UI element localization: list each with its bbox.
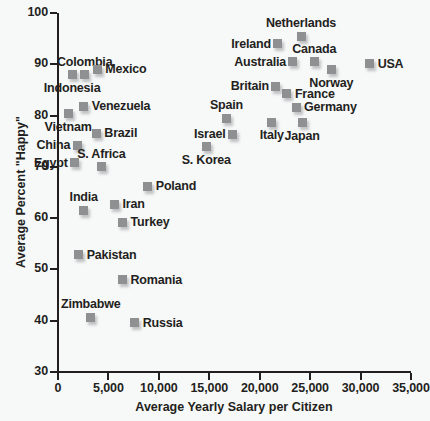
data-point-label: Pakistan xyxy=(87,248,137,262)
y-tick-label: 30 xyxy=(2,364,48,378)
data-point-label: S. Korea xyxy=(182,153,231,167)
data-point-label: China xyxy=(36,138,70,152)
data-point-marker[interactable] xyxy=(79,206,88,215)
data-point-label: Iran xyxy=(122,197,144,211)
data-point-label: Italy xyxy=(260,128,284,142)
data-point-label: Norway xyxy=(309,76,353,90)
x-tick-label: 20,000 xyxy=(241,381,279,395)
data-point-label: Britain xyxy=(231,79,269,93)
data-point-label: S. Africa xyxy=(77,147,125,161)
data-point-marker[interactable] xyxy=(64,109,73,118)
x-tick-mark xyxy=(410,373,412,380)
y-axis-title: Average Percent "Happy" xyxy=(14,92,28,292)
data-point-label: Poland xyxy=(156,179,196,193)
data-point-label: India xyxy=(70,190,98,204)
data-point-marker[interactable] xyxy=(327,65,336,74)
data-point-label: Germany xyxy=(304,100,357,114)
data-point-marker[interactable] xyxy=(365,59,374,68)
x-tick-label: 0 xyxy=(55,381,62,395)
y-tick-mark xyxy=(50,217,57,219)
data-point-marker[interactable] xyxy=(297,32,306,41)
x-axis-title: Average Yearly Salary per Citizen xyxy=(57,400,411,414)
y-tick-mark xyxy=(50,320,57,322)
data-point-label: Venezuela xyxy=(92,99,151,113)
x-tick-label: 10,000 xyxy=(140,381,178,395)
x-tick-label: 25,000 xyxy=(291,381,329,395)
data-point-marker[interactable] xyxy=(292,103,301,112)
data-point-label: Australia xyxy=(234,55,286,69)
y-tick-label: 90 xyxy=(2,56,48,70)
data-point-marker[interactable] xyxy=(118,275,127,284)
data-point-marker[interactable] xyxy=(86,313,95,322)
data-point-label: Israel xyxy=(194,127,225,141)
x-tick-mark xyxy=(57,373,59,380)
plot-area: 30405060708090100 05,00010,00015,00020,0… xyxy=(0,0,430,421)
x-tick-mark xyxy=(360,373,362,380)
x-tick-mark xyxy=(208,373,210,380)
x-tick-label: 30,000 xyxy=(342,381,380,395)
x-tick-label: 5,000 xyxy=(93,381,124,395)
data-point-marker[interactable] xyxy=(79,102,88,111)
y-tick-mark xyxy=(50,371,57,373)
data-point-marker[interactable] xyxy=(271,82,280,91)
x-tick-mark xyxy=(309,373,311,380)
data-point-marker[interactable] xyxy=(68,70,77,79)
data-point-label: Spain xyxy=(210,98,243,112)
x-tick-label: 15,000 xyxy=(190,381,228,395)
scatter-chart: 30405060708090100 05,00010,00015,00020,0… xyxy=(0,0,430,421)
data-point-marker[interactable] xyxy=(298,118,307,127)
data-point-marker[interactable] xyxy=(273,39,282,48)
data-point-marker[interactable] xyxy=(267,118,276,127)
data-point-marker[interactable] xyxy=(74,250,83,259)
y-tick-mark xyxy=(50,12,57,14)
x-tick-mark xyxy=(107,373,109,380)
data-point-label: Canada xyxy=(292,42,336,56)
data-point-label: Mexico xyxy=(105,62,146,76)
data-point-marker[interactable] xyxy=(80,70,89,79)
data-point-label: Russia xyxy=(143,316,183,330)
data-point-label: Brazil xyxy=(104,126,137,140)
data-point-label: Turkey xyxy=(131,215,170,229)
data-point-label: Egypt xyxy=(34,156,68,170)
data-point-marker[interactable] xyxy=(93,65,102,74)
data-point-label: Japan xyxy=(284,129,319,143)
data-point-label: Indonesia xyxy=(44,81,101,95)
data-point-marker[interactable] xyxy=(228,130,237,139)
data-point-marker[interactable] xyxy=(222,114,231,123)
x-tick-mark xyxy=(259,373,261,380)
data-point-marker[interactable] xyxy=(110,200,119,209)
data-point-label: Colombia xyxy=(57,55,112,69)
data-point-marker[interactable] xyxy=(130,318,139,327)
x-tick-mark xyxy=(158,373,160,380)
x-tick-label: 35,000 xyxy=(392,381,430,395)
y-tick-mark xyxy=(50,115,57,117)
data-point-label: Ireland xyxy=(231,37,271,51)
data-point-marker[interactable] xyxy=(310,57,319,66)
data-point-marker[interactable] xyxy=(118,218,127,227)
data-point-marker[interactable] xyxy=(143,182,152,191)
data-point-label: Vietnam xyxy=(45,120,92,134)
data-point-label: Netherlands xyxy=(266,16,336,30)
y-tick-mark xyxy=(50,268,57,270)
y-tick-mark xyxy=(50,63,57,65)
data-point-marker[interactable] xyxy=(202,142,211,151)
data-point-marker[interactable] xyxy=(282,89,291,98)
data-point-label: Zimbabwe xyxy=(61,297,121,311)
x-axis-line xyxy=(57,371,411,373)
y-tick-label: 100 xyxy=(2,5,48,19)
data-point-marker[interactable] xyxy=(92,129,101,138)
data-point-marker[interactable] xyxy=(288,57,297,66)
data-point-marker[interactable] xyxy=(97,162,106,171)
y-tick-label: 40 xyxy=(2,313,48,327)
data-point-label: Romania xyxy=(131,273,182,287)
data-point-label: USA xyxy=(378,57,404,71)
